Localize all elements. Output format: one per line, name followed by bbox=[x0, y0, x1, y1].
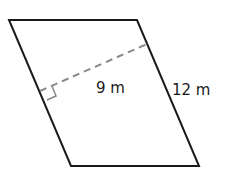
height-dashed-line bbox=[40, 44, 147, 91]
right-angle-marker bbox=[47, 86, 56, 100]
side-length-label: 12 m bbox=[172, 81, 210, 99]
height-label: 9 m bbox=[96, 79, 125, 97]
parallelogram-diagram: 9 m 12 m bbox=[0, 0, 241, 171]
